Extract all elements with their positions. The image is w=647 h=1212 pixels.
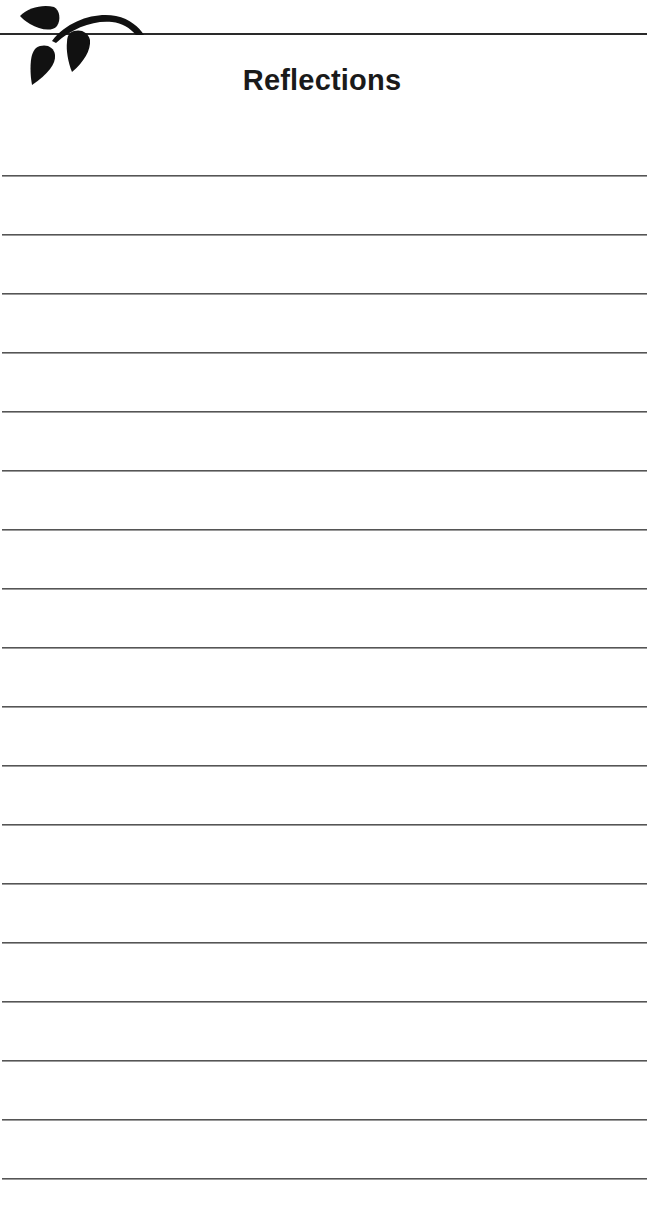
writing-line (2, 411, 647, 413)
writing-line (2, 529, 647, 531)
writing-line (2, 1001, 647, 1003)
writing-line (2, 175, 647, 177)
writing-line (2, 470, 647, 472)
writing-line (2, 1119, 647, 1121)
writing-line (2, 234, 647, 236)
writing-line (2, 1178, 647, 1180)
writing-line (2, 824, 647, 826)
writing-line (2, 293, 647, 295)
page-title: Reflections (0, 64, 644, 97)
writing-line (2, 883, 647, 885)
writing-line (2, 706, 647, 708)
writing-line (2, 647, 647, 649)
writing-line (2, 1060, 647, 1062)
writing-line (2, 942, 647, 944)
writing-line (2, 765, 647, 767)
writing-line (2, 352, 647, 354)
writing-line (2, 588, 647, 590)
